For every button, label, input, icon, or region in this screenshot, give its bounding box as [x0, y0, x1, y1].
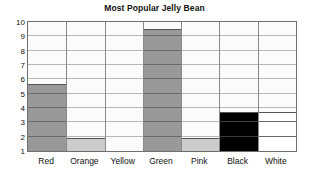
bar-segment-line — [28, 121, 66, 122]
y-tick-label: 3 — [1, 119, 25, 127]
gridline — [28, 21, 296, 22]
bar-white — [258, 112, 296, 151]
bar-segment-line — [143, 78, 181, 79]
x-tick-label-white: White — [257, 154, 295, 168]
x-tick-label-orange: Orange — [65, 154, 103, 168]
column-separator — [258, 22, 259, 151]
column-separator — [219, 22, 220, 151]
x-axis: RedOrangeYellowGreenPinkBlackWhite — [27, 154, 297, 170]
bar-green — [143, 29, 181, 151]
bar-segment-line — [143, 107, 181, 108]
bar-segment-line — [143, 136, 181, 137]
y-tick-label: 5 — [1, 91, 25, 99]
column-separator — [105, 22, 106, 151]
bar-segment-line — [143, 93, 181, 94]
y-tick-label: 7 — [1, 62, 25, 70]
bar-segment-line — [28, 93, 66, 94]
plot-area — [27, 21, 297, 152]
bar-pink — [181, 138, 219, 151]
x-tick-label-red: Red — [27, 154, 65, 168]
x-tick-label-black: Black — [218, 154, 256, 168]
y-tick-label: 9 — [1, 33, 25, 41]
bar-segment-line — [28, 107, 66, 108]
x-tick-label-green: Green — [142, 154, 180, 168]
bar-segment-line — [219, 121, 257, 122]
bar-segment-line — [28, 136, 66, 137]
y-tick-label: 4 — [1, 105, 25, 113]
bar-orange — [66, 138, 104, 151]
column-separator — [143, 22, 144, 151]
y-tick-label: 10 — [1, 19, 25, 27]
bar-segment-line — [258, 121, 296, 122]
y-axis: 12345678910 — [0, 21, 25, 152]
bar-segment-line — [143, 64, 181, 65]
bar-segment-line — [143, 35, 181, 36]
column-separator — [66, 22, 67, 151]
y-tick-label: 6 — [1, 76, 25, 84]
chart-title: Most Popular Jelly Bean — [0, 3, 309, 13]
x-tick-label-pink: Pink — [180, 154, 218, 168]
bar-segment-line — [219, 136, 257, 137]
bar-segment-line — [258, 136, 296, 137]
bar-chart: Most Popular Jelly Bean 12345678910 RedO… — [0, 0, 309, 172]
y-tick-label: 8 — [1, 48, 25, 56]
bar-black — [219, 112, 257, 151]
bar-red — [28, 84, 66, 151]
y-tick-label: 1 — [1, 148, 25, 156]
y-tick-label: 2 — [1, 134, 25, 142]
x-tick-label-yellow: Yellow — [104, 154, 142, 168]
column-separator — [181, 22, 182, 151]
bar-segment-line — [143, 50, 181, 51]
bar-segment-line — [143, 121, 181, 122]
